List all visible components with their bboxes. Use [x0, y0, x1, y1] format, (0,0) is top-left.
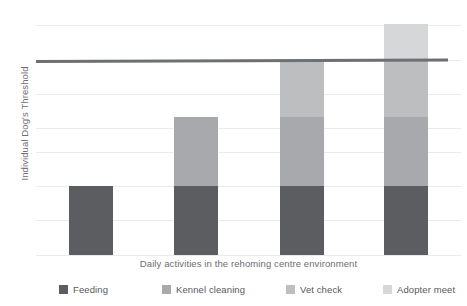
chart-legend: FeedingKennel cleaningVet checkAdopter m…: [36, 281, 467, 299]
legend-item-adopter-meet[interactable]: Adopter meet: [383, 281, 455, 297]
bar-group[interactable]: [69, 16, 113, 256]
bar-group[interactable]: [384, 16, 428, 256]
bar-segment-kennel-cleaning[interactable]: [384, 117, 428, 186]
y-axis-title: Individual Dog's Threshold: [19, 24, 30, 224]
bar-segment-feeding[interactable]: [384, 186, 428, 255]
bar-segment-vet-check[interactable]: [280, 60, 324, 117]
bar-segment-vet-check[interactable]: [384, 60, 428, 117]
bar-group[interactable]: [174, 16, 218, 256]
legend-label: Kennel cleaning: [176, 284, 245, 295]
bar-segment-feeding[interactable]: [69, 186, 113, 255]
plot-area: [36, 16, 467, 256]
legend-swatch-icon: [383, 285, 392, 294]
stacked-bar-chart: Individual Dog's Threshold Daily activit…: [0, 0, 467, 306]
legend-swatch-icon: [162, 285, 171, 294]
legend-label: Adopter meet: [397, 284, 455, 295]
legend-item-feeding[interactable]: Feeding: [59, 281, 108, 297]
legend-label: Feeding: [73, 284, 108, 295]
bar-segment-feeding[interactable]: [280, 186, 324, 255]
bar-segment-kennel-cleaning[interactable]: [280, 117, 324, 186]
bar-segment-adopter-meet[interactable]: [384, 24, 428, 60]
bars-layer: [36, 16, 467, 256]
legend-swatch-icon: [59, 285, 68, 294]
legend-label: Vet check: [300, 284, 342, 295]
legend-item-vet-check[interactable]: Vet check: [286, 281, 342, 297]
bar-segment-feeding[interactable]: [174, 186, 218, 255]
legend-swatch-icon: [286, 285, 295, 294]
legend-item-kennel-cleaning[interactable]: Kennel cleaning: [162, 281, 245, 297]
bar-group[interactable]: [280, 16, 324, 256]
x-axis-title: Daily activities in the rehoming centre …: [36, 258, 461, 269]
bar-segment-kennel-cleaning[interactable]: [174, 117, 218, 186]
